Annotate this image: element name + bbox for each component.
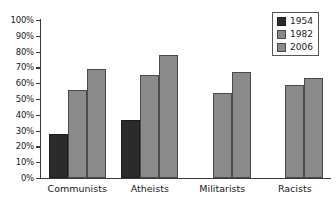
legend-swatch-icon bbox=[277, 43, 286, 52]
legend-label: 1982 bbox=[290, 29, 313, 39]
y-axis-tick-label: 40% bbox=[0, 110, 34, 119]
bar bbox=[121, 120, 140, 178]
x-axis-line bbox=[40, 178, 331, 179]
legend-swatch-icon bbox=[277, 30, 286, 39]
y-axis-tick-mark bbox=[36, 20, 41, 21]
bar bbox=[285, 85, 304, 178]
y-axis-tick-label: 80% bbox=[0, 47, 34, 56]
y-axis-tick-label: 50% bbox=[0, 95, 34, 104]
y-axis-tick-mark bbox=[36, 36, 41, 37]
y-axis-tick-label: 70% bbox=[0, 63, 34, 72]
y-axis-tick-mark bbox=[36, 131, 41, 132]
bar bbox=[68, 90, 87, 178]
bar-chart: 100%90%80%70%60%50%40%30%20%10%0% Commun… bbox=[0, 0, 336, 202]
bar-group bbox=[41, 20, 114, 178]
bar bbox=[304, 78, 323, 178]
bar bbox=[159, 55, 178, 178]
x-axis-category-labels: CommunistsAtheistsMilitaristsRacists bbox=[41, 182, 331, 200]
y-axis-tick-mark bbox=[36, 178, 41, 179]
bar bbox=[49, 134, 68, 178]
bar bbox=[213, 93, 232, 178]
legend-label: 2006 bbox=[290, 42, 313, 52]
y-axis-tick-mark bbox=[36, 115, 41, 116]
legend-entry: 2006 bbox=[277, 42, 313, 52]
x-axis-category-label: Racists bbox=[278, 182, 312, 195]
legend-entry: 1982 bbox=[277, 29, 313, 39]
y-axis-tick-label: 60% bbox=[0, 79, 34, 88]
bar bbox=[140, 75, 159, 178]
chart-legend: 195419822006 bbox=[272, 12, 319, 56]
x-axis-category-label: Militarists bbox=[199, 182, 245, 195]
y-axis-tick-mark bbox=[36, 83, 41, 84]
y-axis-tick-label: 10% bbox=[0, 158, 34, 167]
legend-swatch-icon bbox=[277, 17, 286, 26]
y-axis-tick-label: 30% bbox=[0, 126, 34, 135]
y-axis-tick-label: 90% bbox=[0, 31, 34, 40]
legend-label: 1954 bbox=[290, 16, 313, 26]
x-axis-category-label: Atheists bbox=[131, 182, 169, 195]
y-axis-tick-mark bbox=[36, 67, 41, 68]
y-axis-tick-mark bbox=[36, 146, 41, 147]
y-axis-tick-label: 20% bbox=[0, 142, 34, 151]
y-axis-tick-mark bbox=[36, 52, 41, 53]
bar-group bbox=[186, 20, 259, 178]
bar-group bbox=[114, 20, 187, 178]
y-axis-tick-label: 100% bbox=[0, 16, 34, 25]
x-axis-category-label: Communists bbox=[48, 182, 107, 195]
legend-entry: 1954 bbox=[277, 16, 313, 26]
y-axis-tick-mark bbox=[36, 162, 41, 163]
y-axis-tick-labels: 100%90%80%70%60%50%40%30%20%10%0% bbox=[0, 14, 34, 186]
bar bbox=[232, 72, 251, 178]
y-axis-tick-label: 0% bbox=[0, 174, 34, 183]
y-axis-tick-mark bbox=[36, 99, 41, 100]
bar bbox=[87, 69, 106, 178]
